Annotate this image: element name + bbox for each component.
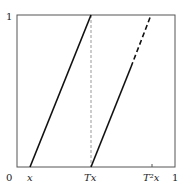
- origin-label: 0: [6, 172, 12, 183]
- branch-1-line: [30, 15, 91, 167]
- tx-label: Tx: [84, 172, 97, 183]
- y-top-label: 1: [6, 11, 12, 22]
- branch-2-dashed-line: [131, 15, 151, 67]
- diagram-canvas: 1 0 x Tx T²x 1: [0, 0, 184, 190]
- x-label: x: [27, 172, 33, 183]
- x-one-label: 1: [172, 172, 178, 183]
- t2x-label: T²x: [143, 172, 160, 183]
- branch-2-solid-line: [91, 67, 131, 167]
- plot-frame: [17, 15, 175, 167]
